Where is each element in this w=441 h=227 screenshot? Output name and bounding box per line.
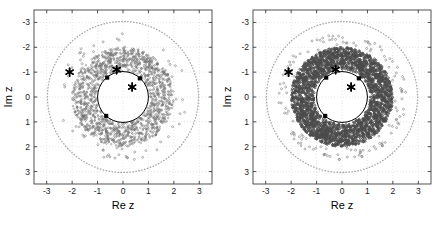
star-center [131,86,134,89]
x-tick-label: -2 [68,186,76,196]
star-center [334,68,337,71]
y-tick-label: 3 [244,167,249,177]
y-tick-label: 0 [25,92,30,102]
y-tick-label: 0 [244,92,249,102]
star-center [287,71,290,74]
x-tick-label: 0 [121,186,126,196]
x-tick-label: -3 [262,186,270,196]
x-tick-label: -3 [43,186,51,196]
y-tick-label: 3 [25,167,30,177]
square-marker [357,77,360,80]
right-panel-canvas: -3-2-101233210-1-2-3Re zIm z [220,0,441,227]
right-panel: -3-2-101233210-1-2-3Re zIm z [220,0,440,227]
star-center [350,86,353,89]
x-axis-title: Re z [112,199,135,211]
figure-root: -3-2-101233210-1-2-3Re zIm z -3-2-101233… [0,0,441,227]
y-tick-label: -1 [22,67,30,77]
star-center [115,68,118,71]
x-tick-label: -1 [94,186,102,196]
x-tick-label: 2 [171,186,176,196]
x-tick-label: -1 [313,186,321,196]
y-tick-label: 2 [25,142,30,152]
square-marker [325,76,328,79]
star-center [68,71,71,74]
x-tick-label: 1 [146,186,151,196]
square-marker [138,77,141,80]
square-marker [106,76,109,79]
y-tick-label: -1 [241,67,249,77]
square-marker [105,114,108,117]
y-axis-title: Im z [2,87,14,108]
y-axis-title: Im z [221,87,233,108]
left-panel: -3-2-101233210-1-2-3Re zIm z [0,0,220,227]
x-tick-label: 2 [390,186,395,196]
y-tick-label: 1 [244,117,249,127]
y-tick-label: -3 [22,17,30,27]
y-tick-label: -3 [241,17,249,27]
y-tick-label: 1 [25,117,30,127]
y-tick-label: 2 [244,142,249,152]
y-tick-label: -2 [241,42,249,52]
x-tick-label: 1 [365,186,370,196]
square-marker [324,114,327,117]
left-panel-canvas: -3-2-101233210-1-2-3Re zIm z [0,0,220,227]
x-tick-label: 3 [416,186,421,196]
x-axis-title: Re z [331,199,354,211]
x-tick-label: 3 [197,186,202,196]
x-tick-label: 0 [340,186,345,196]
x-tick-label: -2 [287,186,295,196]
y-tick-label: -2 [22,42,30,52]
